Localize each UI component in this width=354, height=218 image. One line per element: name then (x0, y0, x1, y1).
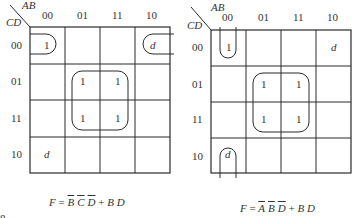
row-label: 11 (192, 113, 203, 125)
row-label: 10 (192, 150, 204, 162)
col-label: 11 (112, 9, 123, 21)
cell-value: d (150, 39, 156, 51)
cell-value: 1 (261, 113, 267, 125)
col-label: 01 (77, 9, 88, 21)
right-formula: F = ABD + B D (240, 202, 315, 214)
formula-literal: C (77, 196, 84, 208)
col-label: 01 (258, 11, 269, 23)
cell-value: d (44, 148, 50, 160)
cell-value: d (331, 41, 337, 53)
formula-plus: + (288, 202, 294, 214)
right-kmap (191, 7, 351, 178)
col-label: 11 (293, 11, 304, 23)
row-label: 10 (11, 148, 23, 160)
cell-value: 1 (296, 113, 302, 125)
row-var-label: CD (6, 16, 21, 28)
formula-literal: B (67, 196, 74, 208)
formula-literal: D (88, 196, 96, 208)
formula-lhs: F (240, 202, 247, 214)
cell-value: 1 (115, 112, 121, 124)
row-label: 11 (11, 112, 22, 124)
formula-literal: A (258, 202, 265, 214)
col-label: 10 (146, 9, 158, 21)
row-var-label: CD (187, 19, 202, 31)
left-kmap (10, 5, 174, 173)
col-label: 00 (42, 9, 54, 21)
formula-lhs: F (49, 196, 56, 208)
page-marker: 8 (0, 212, 6, 218)
formula-literal: D (278, 202, 286, 214)
cell-value: 1 (261, 78, 267, 90)
formula-literal: D (117, 196, 125, 208)
left-formula: F = BCD + B D (49, 196, 125, 208)
row-label: 00 (11, 39, 23, 51)
formula-eq: = (249, 202, 255, 214)
cell-value: 1 (80, 75, 86, 87)
formula-literal: B (268, 202, 275, 214)
col-label: 10 (327, 11, 339, 23)
formula-literal: D (307, 202, 315, 214)
formula-literal: B (107, 196, 114, 208)
cell-value: 1 (226, 41, 232, 53)
cell-value: 1 (296, 78, 302, 90)
group-wrap-right (143, 34, 174, 54)
col-var-label: AB (21, 0, 36, 11)
cell-value: 1 (115, 75, 121, 87)
formula-literal: B (297, 202, 304, 214)
cell-value: d (225, 148, 231, 160)
formula-plus: + (98, 196, 104, 208)
formula-eq: = (58, 196, 64, 208)
kmap-figure: AB CD 00 01 11 10 00 01 11 10 1 d 1 1 1 … (0, 0, 354, 218)
row-label: 00 (192, 41, 204, 53)
row-label: 01 (192, 78, 203, 90)
group-wrap-left (30, 34, 56, 54)
row-label: 01 (11, 75, 22, 87)
col-label: 00 (222, 11, 234, 23)
cell-value: 1 (80, 112, 86, 124)
cell-value: 1 (44, 39, 50, 51)
